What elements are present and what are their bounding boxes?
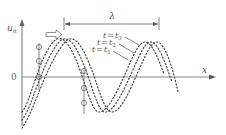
origin-label: 0: [11, 72, 17, 82]
y-axis-label: un: [7, 23, 17, 34]
propagation-direction-arrow-icon: [46, 30, 62, 39]
x-axis: [22, 75, 216, 80]
wavelength-right-arrowhead-icon: [153, 22, 158, 26]
marker-line-left: [36, 43, 41, 90]
y-axis: [20, 19, 25, 126]
wave-diagram: un x 0 λ t=t3: [0, 0, 226, 135]
marker-line-right: [81, 68, 86, 114]
x-axis-label: x: [202, 65, 207, 75]
x-axis-arrowhead-icon: [209, 75, 216, 80]
y-axis-arrowhead-icon: [20, 19, 25, 26]
curve-label-t1: t=t1: [92, 45, 128, 60]
wavelength-label: λ: [108, 10, 115, 21]
wavelength-left-arrowhead-icon: [65, 22, 70, 26]
